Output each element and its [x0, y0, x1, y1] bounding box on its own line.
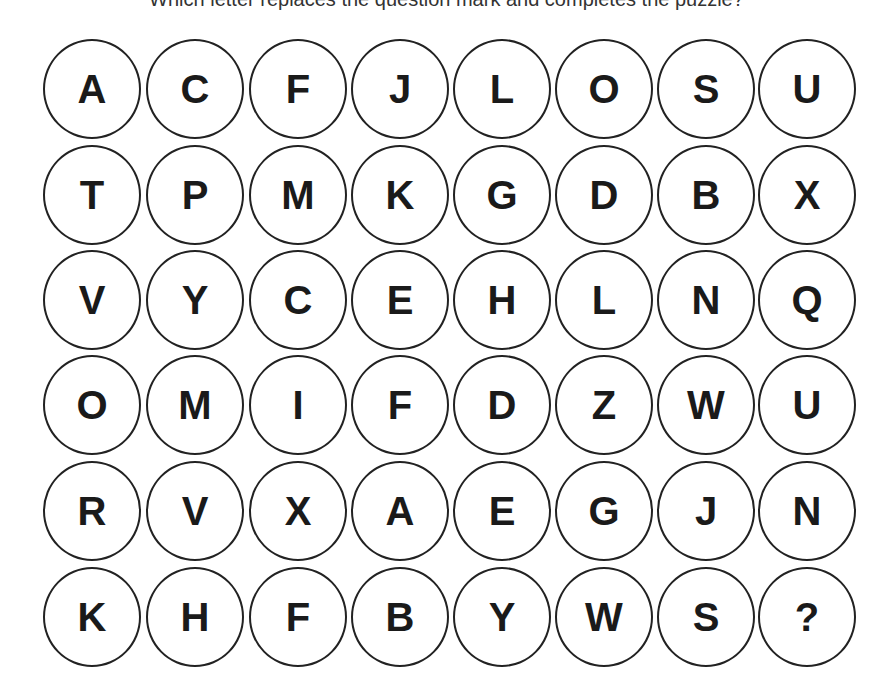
letter-circle: X: [249, 461, 347, 561]
letter-circle: F: [249, 567, 347, 667]
letter: C: [284, 280, 313, 320]
letter: D: [488, 385, 517, 425]
letter: M: [281, 175, 314, 215]
letter-circle: D: [453, 355, 551, 455]
letter: M: [178, 385, 211, 425]
letter: N: [793, 491, 822, 531]
letter: G: [486, 175, 517, 215]
letter-circle: O: [555, 39, 653, 139]
letter: X: [794, 175, 821, 215]
letter-circle: C: [146, 39, 244, 139]
letter-circle: B: [351, 567, 449, 667]
letter: E: [387, 280, 414, 320]
letter: V: [79, 280, 106, 320]
letter: ?: [795, 597, 819, 637]
letter-circle: L: [453, 39, 551, 139]
letter: D: [590, 175, 619, 215]
letter: L: [490, 69, 514, 109]
letter: Y: [182, 280, 209, 320]
letter: S: [693, 597, 720, 637]
letter-circle: Z: [555, 355, 653, 455]
letter-circle: W: [657, 355, 755, 455]
letter: W: [687, 385, 725, 425]
letter: R: [78, 491, 107, 531]
letter: F: [286, 597, 310, 637]
letter-circle: F: [351, 355, 449, 455]
letter: H: [488, 280, 517, 320]
letter-circle: Q: [758, 250, 856, 350]
letter: Q: [791, 280, 822, 320]
letter: J: [695, 491, 717, 531]
letter: C: [181, 69, 210, 109]
letter: U: [793, 385, 822, 425]
letter-circle: I: [249, 355, 347, 455]
letter-circle: Y: [453, 567, 551, 667]
letter-circle: N: [758, 461, 856, 561]
letter-circle: U: [758, 39, 856, 139]
letter-circle: J: [657, 461, 755, 561]
letter-circle: H: [453, 250, 551, 350]
letter-circle: U: [758, 355, 856, 455]
letter: E: [489, 491, 516, 531]
letter-circle: Y: [146, 250, 244, 350]
letter: L: [592, 280, 616, 320]
letter-circle: A: [43, 39, 141, 139]
letter: N: [692, 280, 721, 320]
letter: F: [286, 69, 310, 109]
letter-circle: P: [146, 145, 244, 245]
letter-circle: N: [657, 250, 755, 350]
letter: A: [78, 69, 107, 109]
letter-circle: G: [555, 461, 653, 561]
letter: Z: [592, 385, 616, 425]
letter: F: [388, 385, 412, 425]
letter-circle: M: [146, 355, 244, 455]
letter-circle: H: [146, 567, 244, 667]
letter: P: [182, 175, 209, 215]
letter: B: [386, 597, 415, 637]
letter: O: [588, 69, 619, 109]
letter-circle: R: [43, 461, 141, 561]
letter-circle: G: [453, 145, 551, 245]
letter-circle: V: [43, 250, 141, 350]
letter-circle: K: [351, 145, 449, 245]
letter-circle: S: [657, 39, 755, 139]
letter: J: [389, 69, 411, 109]
letter-circle: O: [43, 355, 141, 455]
letter: K: [78, 597, 107, 637]
letter-circle: J: [351, 39, 449, 139]
letter: X: [285, 491, 312, 531]
letter-circle: A: [351, 461, 449, 561]
letter: G: [588, 491, 619, 531]
letter-circle: X: [758, 145, 856, 245]
letter-circle: E: [351, 250, 449, 350]
letter-circle: D: [555, 145, 653, 245]
letter-circle: W: [555, 567, 653, 667]
letter-grid: ACFJLOSUTPMKGDBXVYCEHLNQOMIFDZWURVXAEGJN…: [0, 0, 893, 679]
letter-circle: K: [43, 567, 141, 667]
letter: U: [793, 69, 822, 109]
letter: V: [182, 491, 209, 531]
letter-circle: V: [146, 461, 244, 561]
letter: Y: [489, 597, 516, 637]
letter: K: [386, 175, 415, 215]
letter: T: [80, 175, 104, 215]
letter: W: [585, 597, 623, 637]
letter: S: [693, 69, 720, 109]
letter: O: [76, 385, 107, 425]
letter: B: [692, 175, 721, 215]
letter: H: [181, 597, 210, 637]
letter-circle: B: [657, 145, 755, 245]
letter-circle: S: [657, 567, 755, 667]
letter-circle: E: [453, 461, 551, 561]
letter-circle: L: [555, 250, 653, 350]
letter-circle: M: [249, 145, 347, 245]
letter-circle: C: [249, 250, 347, 350]
letter-circle: T: [43, 145, 141, 245]
question-mark-circle: ?: [758, 567, 856, 667]
letter-circle: F: [249, 39, 347, 139]
letter: A: [386, 491, 415, 531]
letter: I: [292, 385, 303, 425]
